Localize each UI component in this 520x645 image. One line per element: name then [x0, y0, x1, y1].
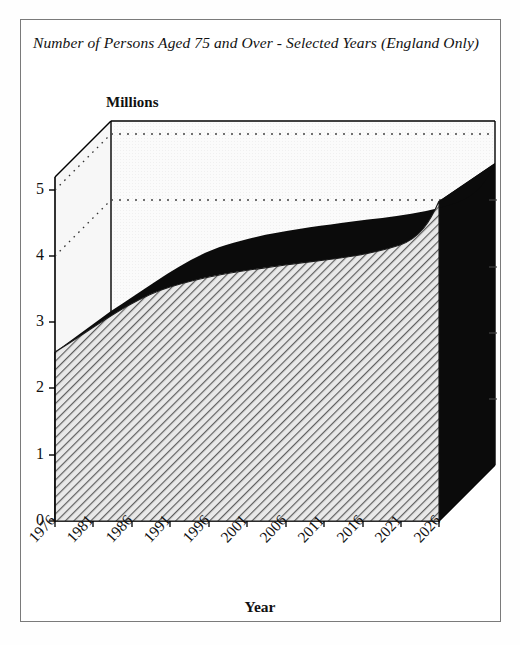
chart-page: Number of Persons Aged 75 and Over - Sel… [0, 0, 520, 645]
y-tick-label: 4 [22, 246, 44, 264]
y-tick-label: 2 [22, 378, 44, 396]
chart-plot-area [0, 0, 520, 645]
y-axis-ticks [49, 190, 55, 521]
y-tick-label: 3 [22, 312, 44, 330]
y-tick-label: 1 [22, 445, 44, 463]
y-tick-label: 5 [22, 180, 44, 198]
series-right-end-cap [439, 163, 495, 521]
x-axis-title: Year [0, 598, 520, 616]
